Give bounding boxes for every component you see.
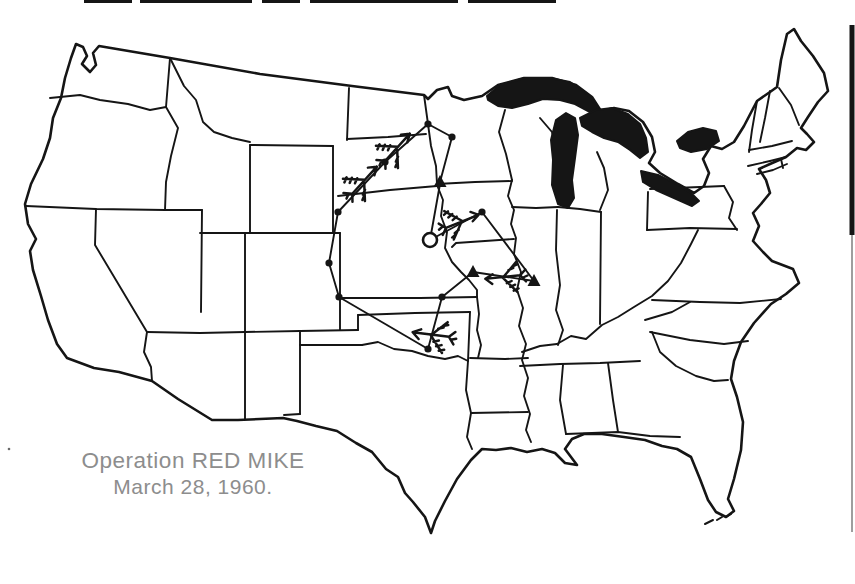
command-post-circle [423,233,437,247]
scanned-map-page: Operation RED MIKE March 28, 1960. [0,0,855,584]
bomber-oklahoma [409,314,459,356]
operation-red-mike-map: Operation RED MIKE March 28, 1960. [0,0,855,584]
caption-operation-date: March 28, 1960. [113,475,272,498]
great-lakes [487,78,719,208]
state-borders [26,58,799,449]
caption-operation-title: Operation RED MIKE [82,448,305,473]
waypoint-dots [325,120,485,352]
florida-keys-dashes [705,514,731,524]
